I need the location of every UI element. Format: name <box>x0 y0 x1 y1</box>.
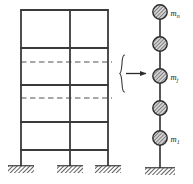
multistory-building-frame <box>8 10 121 173</box>
figure-canvas: mn mj m1 <box>0 0 193 184</box>
mass-n-label-subscript: n <box>177 12 180 18</box>
frame-base-supports <box>8 166 121 173</box>
mass-j-label: mj <box>171 72 179 83</box>
support-right <box>95 166 121 173</box>
mass-1-label-subscript: 1 <box>177 138 180 144</box>
mass-n-label: mn <box>171 8 180 19</box>
mass-j-label-subscript: j <box>176 76 179 82</box>
mass-1 <box>153 131 167 145</box>
idealization-connector <box>119 55 146 92</box>
structural-idealization-diagram: mn mj m1 <box>0 0 193 184</box>
mass-n <box>153 5 167 19</box>
mass-labels: mn mj m1 <box>171 8 180 145</box>
lumped-mass-stick-model: mn mj m1 <box>145 5 180 175</box>
mass-n-1 <box>153 37 167 51</box>
frame-dashed-beams <box>21 62 112 98</box>
support-stick-base <box>145 168 175 175</box>
support-middle <box>57 166 83 173</box>
frame-columns <box>21 10 108 166</box>
support-left <box>8 166 34 173</box>
frame-beams <box>20 10 109 150</box>
mass-j <box>153 69 167 83</box>
curly-brace-icon <box>119 55 124 92</box>
mass-2 <box>153 101 167 115</box>
mass-1-label: m1 <box>171 134 180 145</box>
